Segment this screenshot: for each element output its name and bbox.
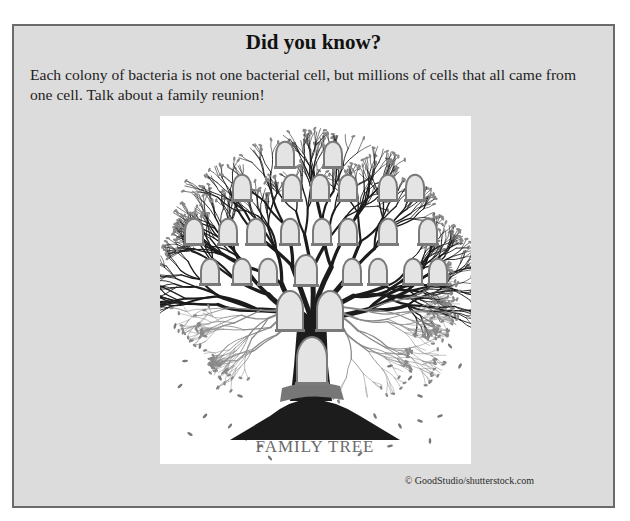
frame-base	[279, 243, 301, 246]
portrait-frame	[317, 291, 343, 330]
branch	[172, 308, 187, 312]
branch	[358, 213, 361, 242]
portrait-frame	[339, 175, 357, 200]
branch	[422, 372, 429, 382]
leaf	[236, 158, 241, 163]
branch	[250, 148, 259, 158]
falling-leaf	[387, 444, 393, 448]
branch	[414, 339, 433, 347]
branch	[390, 382, 394, 393]
falling-leaf	[373, 413, 378, 420]
branch	[241, 155, 252, 162]
falling-leaf	[417, 419, 424, 423]
leaf	[177, 329, 180, 334]
branch	[363, 206, 377, 207]
branch	[169, 258, 180, 270]
frame-base	[309, 199, 331, 202]
falling-leaf	[182, 359, 188, 362]
image-credit: © GoodStudio/shutterstock.com	[14, 475, 534, 486]
frame-base	[427, 283, 449, 286]
portrait-frame	[276, 142, 294, 167]
branch	[271, 154, 273, 173]
frame-base	[417, 243, 439, 246]
portrait-frame	[313, 219, 331, 244]
leaf	[177, 311, 180, 316]
leaf	[444, 220, 448, 225]
branch	[222, 315, 242, 318]
branch	[382, 369, 394, 378]
frame-base	[231, 199, 253, 202]
branch	[204, 353, 215, 354]
branch	[373, 382, 382, 385]
portrait-frame	[343, 259, 361, 284]
leaf	[215, 198, 218, 203]
frame-base	[341, 283, 363, 286]
falling-leaf	[237, 394, 244, 398]
branch	[425, 349, 437, 353]
branch	[315, 129, 316, 143]
portrait-frame	[201, 259, 219, 284]
portrait-frame	[379, 219, 397, 244]
leaf	[441, 222, 445, 227]
branch	[463, 277, 471, 282]
leaf	[286, 129, 291, 133]
portrait-frame	[311, 175, 329, 200]
leaf	[246, 376, 251, 381]
frame-base	[281, 199, 303, 202]
leaf	[398, 386, 403, 391]
leaf	[362, 163, 364, 167]
branch	[348, 136, 353, 148]
frame-base	[315, 329, 345, 332]
leaf	[364, 156, 369, 160]
leaf	[180, 189, 185, 193]
branch	[185, 186, 199, 189]
frame-base	[257, 283, 279, 286]
leaf	[199, 204, 203, 206]
leaf	[239, 154, 244, 157]
leaf	[437, 347, 440, 351]
leaf	[323, 129, 327, 131]
falling-leaf	[437, 414, 444, 418]
frame-base	[311, 243, 333, 246]
frame-base	[377, 199, 399, 202]
branch	[303, 139, 304, 153]
leaf	[362, 136, 365, 141]
falling-leaf	[177, 383, 183, 389]
portrait-frame	[404, 259, 422, 284]
branch	[414, 347, 431, 356]
leaf	[238, 376, 243, 379]
portrait-frame	[429, 259, 447, 284]
portrait-frame	[295, 255, 317, 285]
falling-leaf	[407, 375, 413, 381]
branch	[351, 359, 363, 374]
leaf	[253, 178, 257, 183]
branch	[467, 315, 471, 316]
family-tree-illustration: FAMILY TREE	[160, 116, 471, 464]
portrait-frame	[283, 175, 301, 200]
tree-roots	[230, 399, 400, 440]
portrait-frame	[233, 175, 251, 200]
portrait-frame	[369, 259, 387, 284]
frame-base	[404, 199, 426, 202]
branch	[387, 384, 388, 396]
leaf	[349, 162, 354, 165]
branch	[160, 269, 161, 276]
leaf	[453, 279, 456, 284]
branch	[224, 329, 244, 330]
falling-leaf	[447, 343, 453, 349]
frame-base	[367, 283, 389, 286]
branch	[422, 372, 426, 385]
leaf	[371, 146, 376, 149]
frame-base	[199, 283, 221, 286]
leaf	[360, 158, 365, 162]
leaf	[252, 143, 257, 147]
leaf	[269, 137, 273, 142]
branch	[302, 176, 303, 190]
branch	[305, 209, 308, 236]
branch	[346, 359, 351, 378]
falling-leaf	[173, 323, 177, 329]
leaf	[184, 178, 189, 183]
leaf	[187, 335, 190, 340]
falling-leaf	[457, 363, 462, 369]
falling-leaf	[429, 438, 432, 444]
